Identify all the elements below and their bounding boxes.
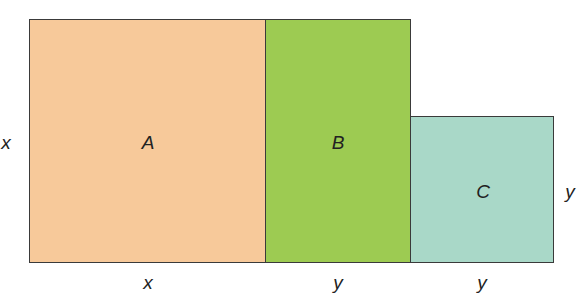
rect-a-label: A <box>142 133 155 152</box>
rect-b-label: B <box>332 133 345 152</box>
left-side-label: x <box>1 133 11 152</box>
rect-c-label: C <box>476 182 490 201</box>
right-side-label: y <box>565 182 575 201</box>
bottom-label-c: y <box>477 273 487 292</box>
bottom-label-b: y <box>333 273 343 292</box>
bottom-label-a: x <box>143 273 153 292</box>
